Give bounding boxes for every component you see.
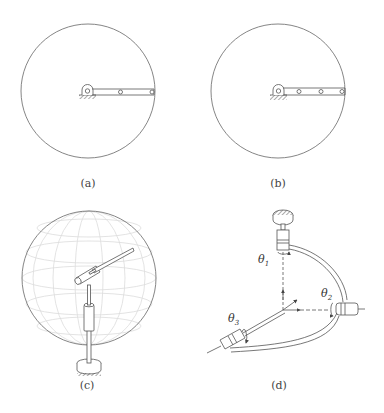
ground-base-icon xyxy=(270,85,287,101)
link-arm xyxy=(92,89,154,95)
caption-a: (a) xyxy=(80,177,95,190)
theta2-label: θ2 xyxy=(321,287,333,302)
joint-icon xyxy=(119,90,123,94)
link-arm xyxy=(283,88,345,95)
top-mount-icon xyxy=(273,210,293,250)
joint-icon xyxy=(150,90,154,94)
caption-b: (b) xyxy=(270,177,286,190)
panel-a xyxy=(21,24,155,158)
theta3-label: θ3 xyxy=(228,312,240,327)
caption-d: (d) xyxy=(271,379,287,392)
joint-icon xyxy=(319,90,323,94)
joint-icon xyxy=(340,90,344,94)
ground-base-icon xyxy=(79,85,96,100)
joint-icon xyxy=(297,90,301,94)
joint-2-icon xyxy=(331,303,365,316)
panel-b xyxy=(211,24,345,158)
figure: θ1 θ2 θ3 (a) (b) (c) (d) xyxy=(0,0,384,413)
joint-3-icon xyxy=(207,329,247,353)
panel-c xyxy=(22,211,156,376)
caption-c: (c) xyxy=(80,379,95,392)
figure-canvas: θ1 θ2 θ3 xyxy=(0,0,384,413)
panel-d: θ1 θ2 θ3 xyxy=(207,210,365,353)
theta1-label: θ1 xyxy=(258,253,269,268)
